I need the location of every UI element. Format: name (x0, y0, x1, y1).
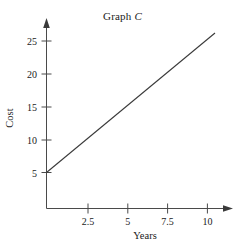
x-axis-tick-label-10: 10 (202, 216, 212, 227)
x-axis-tick-label-5: 5 (125, 216, 130, 227)
y-axis-arrowhead-icon (43, 18, 50, 28)
y-axis-label: Cost (4, 108, 15, 127)
x-axis-tick-label-2.5: 2.5 (82, 216, 95, 227)
y-axis-tick-label-10: 10 (27, 135, 37, 146)
y-axis-tick-label-25: 25 (27, 36, 37, 47)
y-axis-tick-label-20: 20 (27, 69, 37, 80)
x-axis-label: Years (133, 230, 156, 241)
chart-figure: Graph C 25 20 15 10 5 2.5 5 7.5 10 Yea (0, 0, 245, 249)
y-axis-tick-label-5: 5 (32, 168, 37, 179)
x-axis-arrowhead-icon (223, 205, 233, 212)
data-series-line (47, 33, 216, 173)
x-axis-tick-label-7.5: 7.5 (161, 216, 174, 227)
y-axis-tick-label-15: 15 (27, 102, 37, 113)
chart-plot-area: 25 20 15 10 5 2.5 5 7.5 10 Years Cost (0, 0, 245, 249)
